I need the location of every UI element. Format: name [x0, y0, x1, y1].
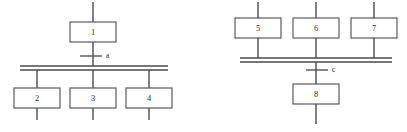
- step-3-label: 3: [91, 93, 95, 103]
- transition-a-label: a: [106, 51, 110, 60]
- diagram-canvas: a 1 2 3 4: [0, 0, 407, 132]
- step-8-label: 8: [314, 89, 318, 99]
- step-6-label: 6: [314, 23, 318, 33]
- step-2-label: 2: [35, 93, 39, 103]
- step-5-label: 5: [256, 23, 260, 33]
- sfc-diagram: a 1 2 3 4: [0, 0, 407, 132]
- step-8[interactable]: 8: [293, 84, 339, 104]
- step-5[interactable]: 5: [235, 18, 281, 38]
- transition-c-label: c: [332, 65, 336, 74]
- step-3[interactable]: 3: [70, 88, 116, 108]
- sync-bar-divergence: [20, 66, 168, 70]
- step-1-label: 1: [91, 27, 95, 37]
- step-7[interactable]: 7: [351, 18, 397, 38]
- step-2[interactable]: 2: [14, 88, 60, 108]
- divergence-panel: a 1 2 3 4: [14, 2, 172, 120]
- step-4[interactable]: 4: [126, 88, 172, 108]
- step-1[interactable]: 1: [70, 22, 116, 42]
- convergence-panel: c 5 6 7 8: [235, 2, 397, 124]
- sync-bar-convergence: [240, 58, 392, 62]
- transition-c[interactable]: c: [306, 65, 336, 74]
- step-6[interactable]: 6: [293, 18, 339, 38]
- step-7-label: 7: [372, 23, 376, 33]
- transition-a[interactable]: a: [80, 51, 110, 60]
